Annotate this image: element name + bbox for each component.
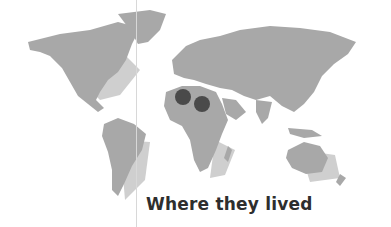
land (28, 10, 356, 196)
world-map (0, 0, 391, 227)
indonesia (288, 128, 322, 138)
india (256, 100, 272, 124)
australia (286, 142, 328, 174)
map-caption: Where they lived (146, 194, 313, 214)
location-marker (175, 89, 191, 105)
page-fold-line (136, 0, 137, 227)
location-marker (194, 96, 210, 112)
